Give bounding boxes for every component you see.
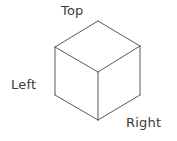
isometric-cube-figure: Top Left Right — [0, 0, 177, 141]
cube-label-right: Right — [126, 116, 161, 130]
cube-label-top: Top — [61, 4, 84, 18]
cube-label-left: Left — [11, 78, 36, 92]
